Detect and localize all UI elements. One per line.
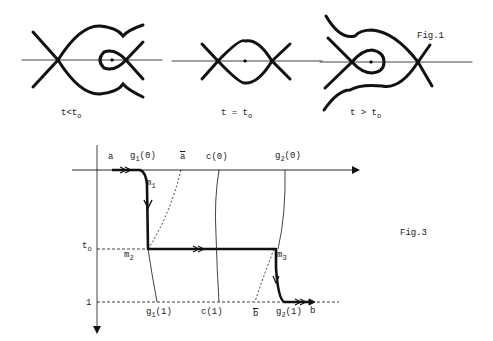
g2-curve [278,170,285,249]
c-curve [215,170,219,302]
label-g1-0: g1(0) [130,151,156,164]
label-b: b [310,306,315,316]
fig1-panel-equal [172,41,322,83]
center-dot [370,61,372,63]
g1-curve [148,249,157,302]
top-axis-arrow-icon [352,166,360,174]
center-dot [111,59,113,61]
label-m3: m3 [277,250,287,263]
fig1-panel-after [320,16,472,110]
label-c-0: c(0) [206,152,228,162]
fig1-label-after: t > to [350,108,381,121]
label-g2-0: g2(0) [275,151,301,164]
fig1-label-equal: t = to [221,108,252,121]
fig1-panel-before [22,25,162,97]
label-m1: m1 [146,178,156,191]
fig3-caption: Fig.3 [400,228,427,238]
fig1-label-before: t<to [61,108,81,121]
label-t0: to [82,241,92,254]
label-one: 1 [86,298,91,308]
label-m2: m2 [124,250,134,263]
label-g1-1: g1(1) [146,307,172,320]
label-a: a [108,152,113,162]
vertical-axis-arrow-icon [93,326,101,334]
diagram-canvas [0,0,493,341]
thick-trajectory [112,170,312,302]
b-tilde-curve [255,249,274,302]
label-b-tilde: b [253,309,258,319]
center-dot [244,60,246,62]
label-g2-1: g2(1) [276,307,302,320]
label-a-tilde: a [180,152,185,162]
end-arrow-icon [309,299,315,305]
fig1-caption: Fig.1 [417,31,444,41]
label-c-1: c(1) [201,307,223,317]
fig3-diagram [72,145,360,334]
